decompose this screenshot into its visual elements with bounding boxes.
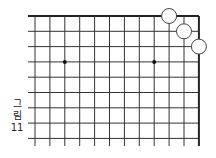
board-grid [28, 16, 199, 146]
caption-line-1: 그 [10, 98, 24, 110]
caption-line-2: 림 [10, 110, 24, 122]
figure-caption: 그 림 11 [10, 98, 24, 134]
white-stone [162, 9, 177, 24]
white-stone [191, 39, 206, 54]
go-board-diagram [0, 0, 216, 158]
star-point [63, 60, 67, 64]
caption-line-3: 11 [10, 122, 24, 134]
star-point [152, 60, 156, 64]
white-stone [177, 24, 192, 39]
